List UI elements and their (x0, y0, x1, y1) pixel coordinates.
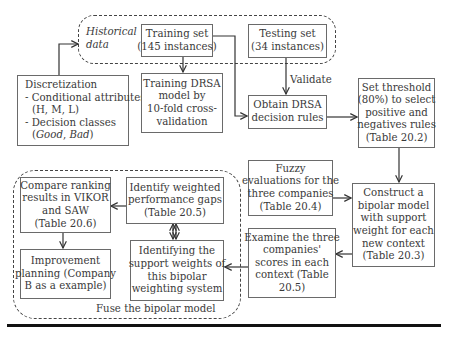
node-text: performance gaps (128, 194, 222, 207)
construct-bipolar-model-node: Construct a bipolar model with support w… (352, 183, 435, 267)
node-text: weight for each (353, 225, 434, 238)
node-text: (Table 20.6) (20, 218, 110, 231)
fuzzy-evaluations-node: Fuzzy evaluations for the three companie… (248, 160, 333, 216)
node-text: context (Table (244, 269, 340, 282)
node-text: planning (Company (15, 268, 116, 281)
node-text: model by (143, 90, 220, 103)
node-text: Construct a (353, 187, 434, 200)
node-text: support weights of (129, 258, 226, 271)
node-text: Obtain DRSA (252, 99, 324, 112)
node-text: Testing set (251, 28, 324, 41)
discretization-node: Discretization - Conditional attributes … (17, 75, 129, 146)
compare-ranking-node: Compare ranking results in VIKOR and SAW… (20, 177, 111, 233)
node-text: Fuzzy (242, 163, 339, 176)
historical-label-line2: data (86, 39, 137, 52)
node-text: Discretization (25, 79, 145, 92)
node-text: - Conditional attributes (25, 92, 145, 105)
node-text: Improvement (15, 255, 116, 268)
decision-classes-values: (Good, Bad) (25, 129, 145, 142)
node-text: - Decision classes (25, 117, 145, 130)
bottom-rule-divider (7, 324, 441, 327)
node-text: Training set (137, 28, 216, 41)
node-text: 10-fold cross- (143, 103, 220, 116)
historical-label-line1: Historical (86, 26, 137, 39)
node-text: weighting system (129, 283, 226, 296)
node-text: and SAW (20, 205, 110, 218)
node-text: B as a example) (15, 280, 116, 293)
node-text: bipolar model (353, 200, 434, 213)
identify-weighted-gaps-node: Identify weighted performance gaps (Tabl… (126, 177, 224, 224)
node-text: Compare ranking (20, 180, 110, 193)
node-text: results in VIKOR (20, 192, 110, 205)
node-text: (80%) to select (357, 94, 436, 107)
node-text: scores in each (244, 257, 340, 270)
improvement-planning-node: Improvement planning (Company B as a exa… (20, 249, 111, 299)
fuse-bipolar-model-label: Fuse the bipolar model (96, 303, 216, 316)
node-text: (34 instances) (251, 41, 324, 54)
node-text: companies' (244, 244, 340, 257)
paren-close: ) (90, 129, 94, 140)
node-text: Set threshold (357, 82, 436, 95)
node-text: Examine the three (244, 232, 340, 245)
node-text: with support (353, 212, 434, 225)
node-text: (145 instances) (137, 41, 216, 54)
training-set-node: Training set (145 instances) (141, 24, 213, 57)
node-text: validation (143, 116, 220, 129)
node-text: three companies (242, 188, 339, 201)
node-text: negatives rules (357, 119, 436, 132)
historical-data-label: Historical data (86, 26, 137, 51)
testing-set-node: Testing set (34 instances) (248, 24, 327, 58)
training-drsa-node: Training DRSA model by 10-fold cross- va… (141, 73, 223, 133)
node-text: 20.5) (244, 282, 340, 295)
node-text: (Table 20.2) (357, 132, 436, 145)
node-text: Identify weighted (128, 182, 222, 195)
class-good: Good (36, 129, 63, 140)
node-text: (Table 20.3) (353, 250, 434, 263)
class-bad: Bad (69, 129, 89, 140)
node-text: this bipolar (129, 271, 226, 284)
node-text: (Table 20.4) (242, 201, 339, 214)
node-text: decision rules (252, 112, 324, 125)
set-threshold-node: Set threshold (80%) to select positive a… (358, 78, 435, 148)
validate-edge-label: Validate (290, 74, 332, 87)
support-weights-node: Identifying the support weights of this … (130, 240, 224, 301)
node-text: Training DRSA (143, 78, 220, 91)
node-text: positive and (357, 107, 436, 120)
obtain-drsa-rules-node: Obtain DRSA decision rules (248, 95, 327, 129)
node-text: new context (353, 238, 434, 251)
examine-scores-node: Examine the three companies' scores in e… (248, 228, 336, 298)
node-text: (H, M, L) (25, 104, 145, 117)
node-text: (Table 20.5) (128, 207, 222, 220)
node-text: Identifying the (129, 245, 226, 258)
node-text: evaluations for the (242, 175, 339, 188)
